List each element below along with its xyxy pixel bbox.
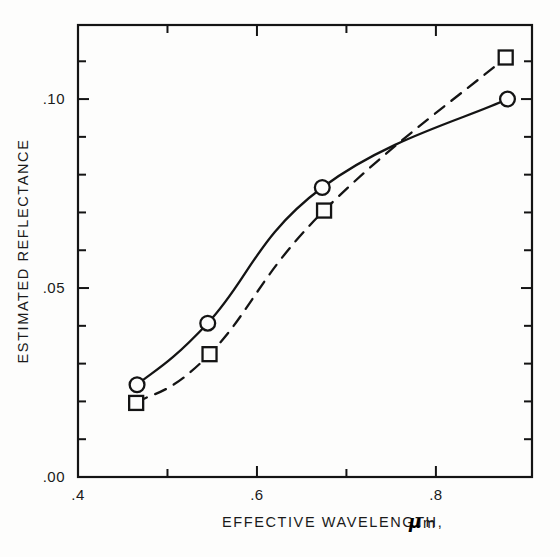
y-tick-labels: .00.05.10 — [43, 90, 65, 485]
axes-frame-rect — [78, 25, 532, 477]
data-point-circle — [500, 92, 515, 107]
chart-plot-area: .4.6.8 .00.05.10 EFFECTIVE WAVELENGTH, μ… — [0, 0, 560, 557]
y-tick-label: .10 — [43, 90, 65, 107]
data-point-square — [499, 51, 513, 65]
data-point-square — [317, 204, 331, 218]
data-point-square — [203, 347, 217, 361]
data-point-circle — [315, 180, 330, 195]
data-series-square — [129, 51, 513, 410]
dashed-trend-line — [136, 58, 506, 403]
y-tick-label: .00 — [43, 468, 65, 485]
y-axis-title-text: ESTIMATED REFLECTANCE — [15, 139, 31, 364]
axis-ticks — [78, 25, 532, 477]
data-point-circle — [130, 377, 145, 392]
data-series-circle — [130, 92, 515, 393]
x-tick-label: .8 — [429, 486, 443, 503]
axes-frame — [78, 25, 532, 477]
y-axis-title: ESTIMATED REFLECTANCE — [15, 139, 31, 364]
chart-figure: .4.6.8 .00.05.10 EFFECTIVE WAVELENGTH, μ… — [0, 0, 560, 557]
data-point-circle — [200, 316, 215, 331]
x-tick-label: .4 — [71, 486, 85, 503]
y-tick-label: .05 — [43, 279, 65, 296]
x-axis-unit-text: m — [423, 515, 437, 531]
data-series-group — [129, 51, 515, 410]
x-axis-title: EFFECTIVE WAVELENGTH, μ m — [222, 512, 443, 532]
x-tick-labels: .4.6.8 — [71, 486, 442, 503]
data-point-square — [129, 396, 143, 410]
solid-trend-line — [137, 99, 507, 385]
micro-symbol-icon: μ — [408, 512, 422, 532]
x-tick-label: .6 — [250, 486, 264, 503]
